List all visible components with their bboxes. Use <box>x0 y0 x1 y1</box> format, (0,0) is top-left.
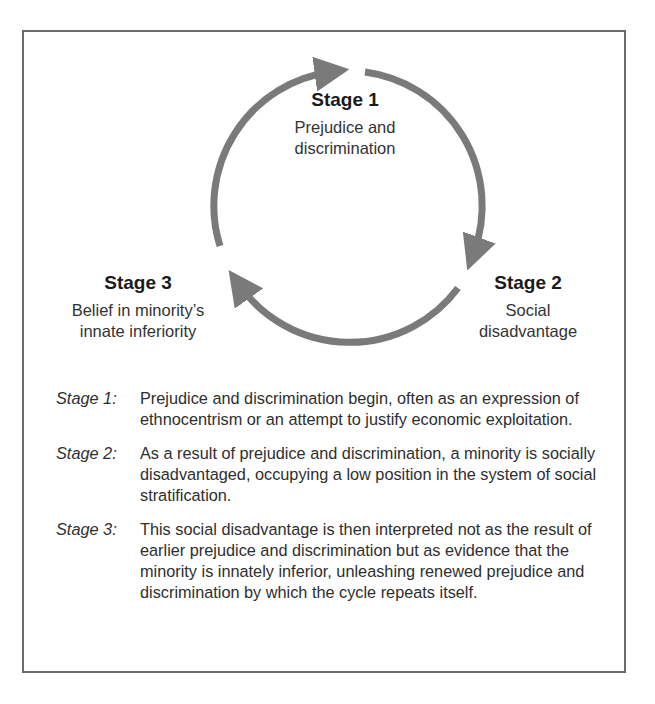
stage-2-description: Social disadvantage <box>448 300 608 342</box>
note-key: Stage 3: <box>56 519 140 603</box>
stage-1-label: Stage 1 Prejudice and discrimination <box>265 88 425 159</box>
arrow-stage2-to-stage3-icon <box>240 286 458 342</box>
note-text: Prejudice and discrimination begin, ofte… <box>140 388 616 430</box>
stage-2-label: Stage 2 Social disadvantage <box>448 271 608 342</box>
note-key: Stage 1: <box>56 388 140 430</box>
stage-notes: Stage 1: Prejudice and discrimination be… <box>56 388 616 616</box>
stage-3-title: Stage 3 <box>48 271 228 295</box>
stage-3-label: Stage 3 Belief in minority’s innate infe… <box>48 271 228 342</box>
note-stage-3: Stage 3: This social disadvantage is the… <box>56 519 616 603</box>
note-stage-1: Stage 1: Prejudice and discrimination be… <box>56 388 616 430</box>
note-text: This social disadvantage is then interpr… <box>140 519 616 603</box>
stage-3-description: Belief in minority’s innate inferiority <box>48 300 228 342</box>
stage-1-description: Prejudice and discrimination <box>265 117 425 159</box>
stage-1-title: Stage 1 <box>265 88 425 112</box>
note-stage-2: Stage 2: As a result of prejudice and di… <box>56 443 616 506</box>
note-text: As a result of prejudice and discriminat… <box>140 443 616 506</box>
note-key: Stage 2: <box>56 443 140 506</box>
stage-2-title: Stage 2 <box>448 271 608 295</box>
